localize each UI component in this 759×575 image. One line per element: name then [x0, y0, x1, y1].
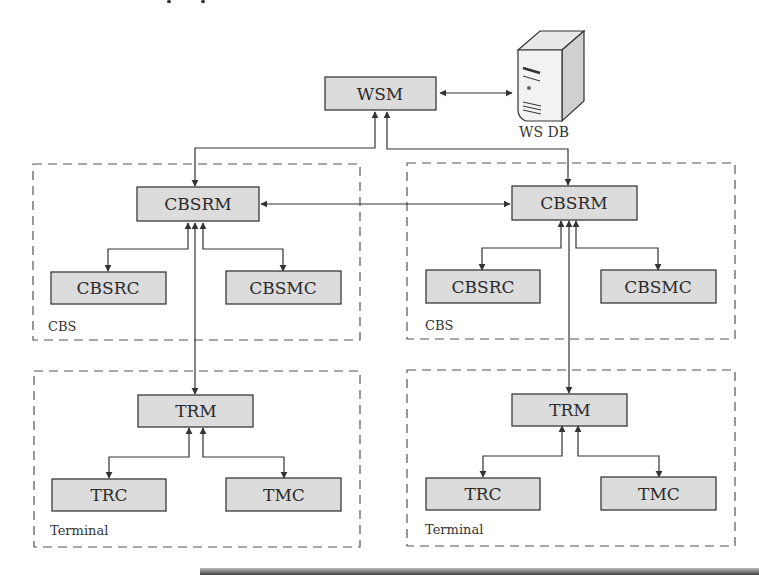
node-label: WSM	[357, 84, 404, 104]
node-trm-right: TRM	[512, 394, 627, 426]
node-label: CBSRC	[452, 277, 515, 297]
node-cbsmc-right: CBSMC	[601, 270, 716, 303]
db-label: WS DB	[519, 124, 569, 140]
edge-trm-trc-left	[109, 428, 189, 478]
node-trm-left: TRM	[138, 395, 253, 427]
edge-cbsrm-cbsrc-left	[108, 223, 188, 271]
edge-trm-tmc-right	[578, 426, 659, 477]
node-trc-right: TRC	[426, 478, 540, 510]
node-label: TRM	[175, 401, 217, 421]
server-database-icon	[518, 31, 584, 121]
edge-cbsrm-cbsrc-right	[482, 221, 561, 270]
node-label: TMC	[638, 484, 680, 504]
node-cbsrm-left: CBSRM	[137, 187, 259, 221]
node-label: TRC	[464, 484, 501, 504]
node-label: CBSRM	[540, 193, 607, 213]
edge-trm-trc-right	[483, 426, 562, 477]
node-cbsrm-right: CBSRM	[512, 186, 637, 220]
node-wsm: WSM	[325, 77, 436, 110]
node-label: TMC	[263, 485, 305, 505]
node-cbsmc-left: CBSMC	[226, 271, 341, 304]
node-tmc-right: TMC	[601, 477, 716, 510]
node-cbsrc-left: CBSRC	[51, 272, 166, 304]
node-cbsrc-right: CBSRC	[426, 270, 540, 303]
edge-cbsrm-cbsmc-right	[576, 221, 658, 270]
group-label: CBS	[48, 319, 76, 334]
edge-cbsrm-cbsmc-left	[203, 223, 283, 271]
node-tmc-left: TMC	[226, 478, 341, 511]
node-trc-left: TRC	[52, 479, 166, 511]
group-label: CBS	[425, 318, 453, 333]
edge-wsm-cbsrm-right	[387, 112, 568, 185]
edge-trm-tmc-left	[203, 428, 284, 478]
page-edge-shadow	[200, 568, 759, 575]
node-label: CBSRC	[77, 278, 140, 298]
node-label: TRC	[90, 485, 127, 505]
architecture-diagram: CBS CBS Terminal Terminal	[0, 0, 759, 575]
node-label: CBSMC	[624, 277, 692, 297]
edge-wsm-cbsrm-left	[195, 112, 375, 186]
node-label: TRM	[549, 400, 591, 420]
node-label: CBSMC	[249, 278, 317, 298]
group-label: Terminal	[425, 522, 483, 537]
group-label: Terminal	[50, 523, 108, 538]
node-label: CBSRM	[164, 194, 231, 214]
